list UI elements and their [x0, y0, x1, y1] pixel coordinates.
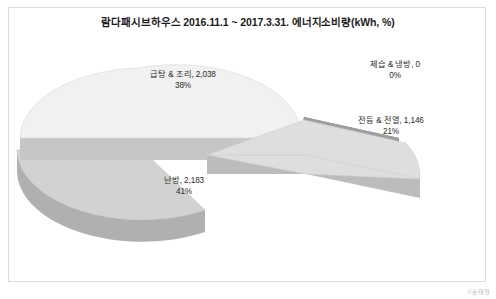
- data-label-난방-value: 난방, 2,183: [164, 176, 204, 185]
- data-label-급탕-조리-percent: 38%: [119, 81, 247, 92]
- data-label-제습-냉방-value: 제습 & 냉방, 0: [370, 60, 420, 69]
- pie-chart-svg: [8, 7, 486, 282]
- data-label-급탕-조리: 급탕 & 조리, 2,038 38%: [119, 70, 247, 92]
- data-label-전등-전열: 전등 & 전열, 1,146 21%: [327, 116, 455, 138]
- data-label-전등-전열-percent: 21%: [327, 127, 455, 138]
- data-label-제습-냉방-percent: 0%: [336, 71, 454, 82]
- data-label-제습-냉방: 제습 & 냉방, 0 0%: [336, 60, 454, 82]
- data-label-급탕-조리-value: 급탕 & 조리, 2,038: [150, 70, 216, 79]
- page-title: 람다패시브하우스 2016.11.1 ~ 2017.3.31. 에너지소비량(k…: [0, 14, 496, 29]
- data-label-전등-전열-value: 전등 & 전열, 1,146: [358, 116, 424, 125]
- watermark: ©손태현: [468, 287, 490, 296]
- pie-chart-plot-area: [8, 7, 486, 282]
- data-label-난방-percent: 41%: [129, 187, 239, 198]
- data-label-난방: 난방, 2,183 41%: [129, 176, 239, 198]
